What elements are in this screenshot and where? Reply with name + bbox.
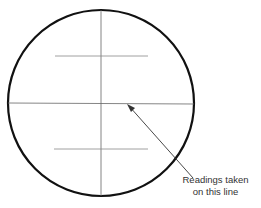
horizontal-crosshair: [8, 103, 194, 104]
annotation-line-1: Readings taken: [170, 174, 261, 186]
pointer-arrow: [127, 104, 193, 178]
annotation-label: Readings taken on this line: [170, 174, 261, 198]
annotation-line-2: on this line: [170, 186, 261, 198]
